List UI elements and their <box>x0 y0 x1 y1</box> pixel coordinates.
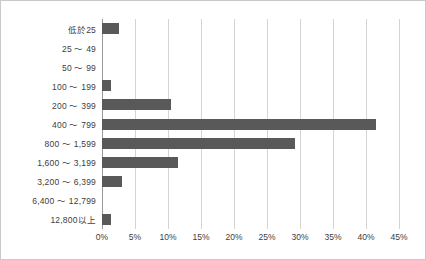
bar <box>102 138 295 149</box>
x-tick-label: 15% <box>192 232 209 242</box>
gridline-45 <box>399 19 400 229</box>
bar-row <box>102 57 399 76</box>
x-tick-label: 5% <box>129 232 141 242</box>
category-label: 800 ～ 1,599 <box>1 134 96 153</box>
bar-row <box>102 19 399 38</box>
category-label: 100 ～ 199 <box>1 76 96 95</box>
bar-chart: 低於2525 ～ 4950 ～ 99100 ～ 199200 ～ 399400 … <box>0 0 426 260</box>
x-tick-label: 25% <box>258 232 275 242</box>
category-label: 12,800以上 <box>1 210 96 229</box>
plot-area <box>102 19 399 229</box>
x-tick-label: 0% <box>96 232 108 242</box>
category-axis-labels: 低於2525 ～ 4950 ～ 99100 ～ 199200 ～ 399400 … <box>1 19 96 229</box>
category-label: 25 ～ 49 <box>1 38 96 57</box>
bar-row <box>102 38 399 57</box>
bar-row <box>102 114 399 133</box>
bar <box>102 99 171 110</box>
x-tick-label: 20% <box>225 232 242 242</box>
bar <box>102 23 119 34</box>
x-tick-label: 10% <box>159 232 176 242</box>
category-label: 低於25 <box>1 19 96 38</box>
bar-row <box>102 210 399 229</box>
category-label: 6,400 ～ 12,799 <box>1 191 96 210</box>
x-tick-label: 30% <box>291 232 308 242</box>
bar-row <box>102 172 399 191</box>
x-tick-label: 35% <box>324 232 341 242</box>
bar-row <box>102 134 399 153</box>
category-label: 1,600 ～ 3,199 <box>1 153 96 172</box>
bar-row <box>102 95 399 114</box>
bar-row <box>102 76 399 95</box>
bar-rows <box>102 19 399 229</box>
x-tick-label: 45% <box>390 232 407 242</box>
bar <box>102 214 111 225</box>
bar <box>102 119 376 130</box>
x-tick-label: 40% <box>357 232 374 242</box>
bar <box>102 176 122 187</box>
bar <box>102 80 111 91</box>
bar-row <box>102 153 399 172</box>
category-label: 50 ～ 99 <box>1 57 96 76</box>
value-axis-labels: 0%5%10%15%20%25%30%35%40%45% <box>102 232 399 246</box>
category-label: 400 ～ 799 <box>1 114 96 133</box>
category-label: 200 ～ 399 <box>1 95 96 114</box>
bar <box>102 157 178 168</box>
bar-row <box>102 191 399 210</box>
category-label: 3,200 ～ 6,399 <box>1 172 96 191</box>
